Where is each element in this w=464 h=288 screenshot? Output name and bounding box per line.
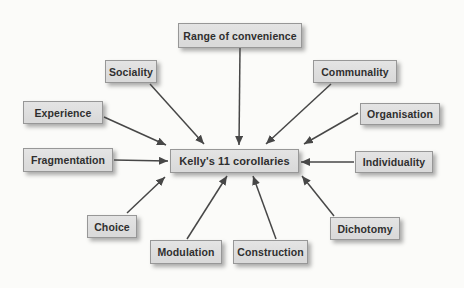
node-communality: Communality [313,60,397,83]
node-label: Individuality [363,156,426,168]
node-experience: Experience [23,101,103,124]
node-label: Organisation [367,108,433,120]
node-label: Dichotomy [337,223,392,235]
center-node-label: Kelly's 11 corollaries [179,155,290,167]
arrow-communality [266,84,331,144]
node-label: Construction [237,246,304,258]
arrow-sociality [150,84,204,144]
diagram-canvas: Range of convenience Sociality Communali… [0,0,464,288]
arrow-modulation [187,176,227,239]
node-choice: Choice [87,215,137,238]
arrow-experience [104,117,166,145]
arrow-fragmentation [114,160,168,161]
node-fragmentation: Fragmentation [23,148,113,172]
node-individuality: Individuality [355,151,433,173]
node-label: Modulation [158,246,215,258]
arrow-choice [127,177,165,213]
arrow-range-of-convenience [239,48,240,145]
node-label: Fragmentation [31,154,105,166]
node-modulation: Modulation [150,240,222,264]
node-label: Range of convenience [183,30,296,42]
node-organisation: Organisation [360,103,440,125]
node-construction: Construction [233,240,308,264]
node-range-of-convenience: Range of convenience [178,23,302,48]
node-label: Communality [321,66,389,78]
node-dichotomy: Dichotomy [330,217,400,240]
arrow-construction [253,176,276,239]
node-label: Choice [94,221,130,233]
arrow-dichotomy [302,176,334,216]
node-label: Sociality [109,66,153,78]
arrow-organisation [304,113,358,144]
node-label: Experience [34,107,91,119]
node-sociality: Sociality [105,60,157,83]
node-kellys-11-corollaries: Kelly's 11 corollaries [170,149,299,173]
